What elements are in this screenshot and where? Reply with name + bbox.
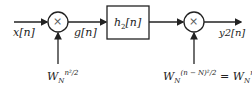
filter-block-label: h2[n]	[114, 17, 141, 28]
output-label: y2[n]	[219, 28, 245, 38]
block-diagram: × × x[n] g[n] h2[n] y2[n] WNn²/2 WN(n − …	[0, 0, 252, 91]
multiply-icon: ×	[53, 16, 62, 27]
chirp-factor-1: WNn²/2	[47, 71, 79, 82]
input-label: x[n]	[13, 27, 35, 38]
multiply-icon: ×	[189, 16, 198, 27]
chirp-factor-2: WN(n − N)²/2 = WNn²/2	[163, 71, 252, 82]
intermediate-label: g[n]	[74, 27, 97, 38]
